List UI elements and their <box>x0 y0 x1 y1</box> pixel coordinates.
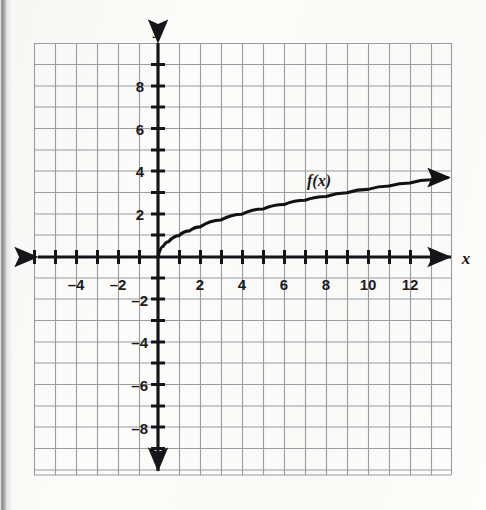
x-tick-label: 6 <box>280 276 288 293</box>
y-tick-label: 6 <box>136 121 144 138</box>
x-axis <box>35 250 452 264</box>
y-tick-label: 2 <box>136 206 144 223</box>
coordinate-plane-graph: x y –4 –2 2 4 6 8 10 12 8 6 4 2 –2 –4 –6… <box>0 0 486 510</box>
x-tick-label: –2 <box>110 276 127 293</box>
y-tick-label: –4 <box>131 334 148 351</box>
curve-label: f(x) <box>307 172 331 190</box>
x-tick-label: 8 <box>322 276 330 293</box>
y-tick-label: 8 <box>136 78 144 95</box>
x-tick-label: 4 <box>238 276 247 293</box>
y-tick-label: 4 <box>136 163 145 180</box>
x-tick-labels: –4 –2 2 4 6 8 10 12 <box>68 276 419 293</box>
x-tick-label: 12 <box>402 276 419 293</box>
x-axis-label: x <box>461 249 471 268</box>
y-axis-label: y <box>152 19 162 38</box>
y-tick-label: –2 <box>131 292 148 309</box>
y-tick-label: –8 <box>131 420 148 437</box>
y-tick-label: –6 <box>131 377 148 394</box>
figure-page: x y –4 –2 2 4 6 8 10 12 8 6 4 2 –2 –4 –6… <box>0 0 486 510</box>
function-curve <box>158 178 448 257</box>
x-tick-label: 2 <box>196 276 204 293</box>
x-tick-label: 10 <box>360 276 377 293</box>
x-tick-label: –4 <box>68 276 85 293</box>
